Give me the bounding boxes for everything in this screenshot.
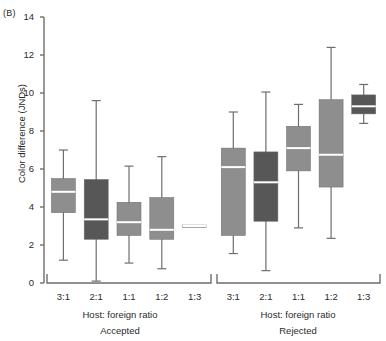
x-axis-tick-label: 3:1 xyxy=(50,291,76,302)
x-axis-tick-label: 2:1 xyxy=(253,291,279,302)
y-axis-tick-label: 14 xyxy=(14,11,34,22)
y-axis-tick-label: 10 xyxy=(14,87,34,98)
x-axis-tick-label: 1:2 xyxy=(318,291,344,302)
box-iqr xyxy=(150,198,174,240)
x-axis-tick-label: 1:2 xyxy=(149,291,175,302)
x-axis-tick-label: 3:1 xyxy=(220,291,246,302)
boxplot-accepted-1-3 xyxy=(183,225,207,227)
boxplot-rejected-3-1 xyxy=(221,112,245,254)
boxplot-accepted-3-1 xyxy=(51,150,75,260)
boxplot-accepted-1-2 xyxy=(150,157,174,269)
boxplot-rejected-2-1 xyxy=(254,92,278,271)
box-iqr xyxy=(254,152,278,221)
x-axis-tick-label: 2:1 xyxy=(83,291,109,302)
group-name-rejected: Rejected xyxy=(223,325,373,336)
y-axis-tick-label: 0 xyxy=(14,277,34,288)
y-axis-tick-label: 6 xyxy=(14,163,34,174)
box-iqr xyxy=(117,202,141,235)
figure-panel-b: (B) Color difference (JNDs) 02468101214 … xyxy=(0,0,386,341)
boxplot-accepted-2-1 xyxy=(84,101,108,282)
box-iqr xyxy=(221,148,245,235)
plot-canvas xyxy=(0,0,386,341)
box-iqr xyxy=(51,179,75,213)
panel-bottom-axis xyxy=(47,274,211,283)
panel-bottom-axis xyxy=(217,274,380,283)
x-axis-title-accepted: Host: foreign ratio xyxy=(45,309,195,320)
y-axis-tick-label: 4 xyxy=(14,201,34,212)
y-axis-tick-label: 8 xyxy=(14,125,34,136)
boxplot-rejected-1-1 xyxy=(287,104,311,227)
box-iqr xyxy=(352,95,376,114)
y-axis-tick-label: 12 xyxy=(14,49,34,60)
x-axis-tick-label: 1:1 xyxy=(286,291,312,302)
boxplot-accepted-1-1 xyxy=(117,166,141,263)
x-axis-tick-label: 1:3 xyxy=(351,291,377,302)
x-axis-tick-label: 1:1 xyxy=(116,291,142,302)
box-iqr xyxy=(84,179,108,239)
boxplot-rejected-1-3 xyxy=(352,84,376,123)
x-axis-tick-label: 1:3 xyxy=(182,291,208,302)
x-axis-title-rejected: Host: foreign ratio xyxy=(223,309,373,320)
boxplot-rejected-1-2 xyxy=(319,47,343,238)
group-name-accepted: Accepted xyxy=(45,325,195,336)
y-axis-tick-label: 2 xyxy=(14,239,34,250)
box-iqr xyxy=(319,100,343,187)
